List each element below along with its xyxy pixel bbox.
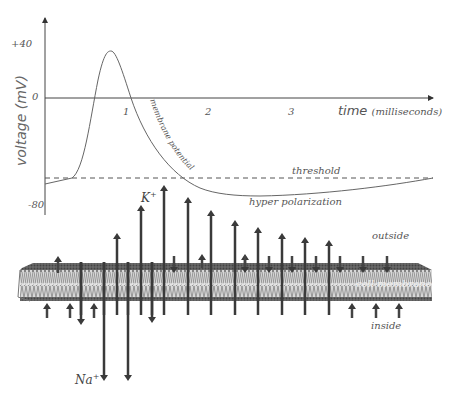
potassium-symbol: K: [141, 191, 150, 205]
potassium-charge: +: [150, 190, 157, 199]
membrane-potential-label: membrane potential: [148, 98, 196, 173]
y-tick-0: 0: [32, 91, 38, 102]
inside-label: inside: [371, 320, 401, 331]
y-axis-label: voltage (mV): [13, 75, 29, 166]
y-tick-minus80: -80: [28, 199, 44, 210]
action-potential-diagram: membrane potential +40 0 -80 voltage (mV…: [0, 0, 449, 398]
x-tick-1: 1: [123, 106, 129, 117]
x-tick-2: 2: [205, 106, 211, 117]
diagram-svg: membrane potential: [0, 0, 449, 398]
y-tick-plus40: +40: [11, 38, 32, 49]
x-axis-label: time (milliseconds): [338, 103, 442, 118]
sodium-symbol: Na: [75, 373, 93, 387]
y-axis-label-text: voltage: [13, 114, 29, 166]
x-axis-label-text: time: [338, 103, 367, 118]
threshold-label: threshold: [292, 165, 340, 176]
small-arrows-bottom: [47, 306, 399, 318]
x-axis-unit: (milliseconds): [372, 106, 443, 117]
x-tick-3: 3: [288, 106, 294, 117]
cell-membrane-label: cell membrane: [356, 278, 431, 289]
membrane-potential-curve: [45, 51, 433, 196]
hyper-polarization-label: hyper polarization: [249, 196, 342, 207]
outside-label: outside: [372, 230, 409, 241]
sodium-charge: +: [93, 372, 100, 381]
potassium-label: K+: [141, 190, 157, 205]
y-axis-unit: (mV): [13, 75, 29, 109]
sodium-label: Na+: [75, 372, 99, 387]
